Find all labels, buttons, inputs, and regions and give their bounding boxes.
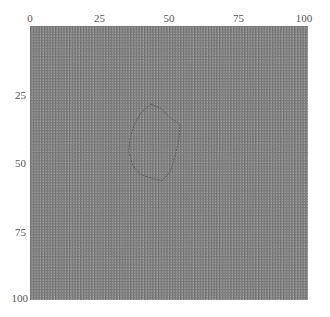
x-tick-label: 100 (296, 13, 313, 24)
y-tick-label: 25 (0, 89, 26, 100)
x-tick-label: 25 (94, 13, 105, 24)
plot-area (0, 0, 330, 317)
heatmap-grid (30, 26, 308, 300)
y-tick-label: 75 (0, 226, 26, 237)
x-tick-label: 50 (164, 13, 175, 24)
y-tick-label: 100 (0, 293, 28, 304)
x-tick-label: 0 (27, 13, 33, 24)
chart-figure: 0 25 50 75 100 25 50 75 100 (0, 0, 330, 317)
y-tick-label: 50 (0, 158, 26, 169)
x-tick-label: 75 (233, 13, 244, 24)
